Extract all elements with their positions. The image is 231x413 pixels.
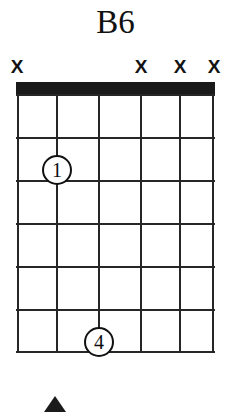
fret-line-6	[16, 351, 215, 353]
string-line-2	[56, 94, 58, 353]
string-line-3	[98, 94, 100, 353]
fretboard: 1 4	[17, 82, 214, 353]
string-marker-6: X	[203, 56, 225, 78]
string-line-5	[179, 94, 181, 353]
string-line-1	[17, 94, 19, 353]
string-marker-4: X	[130, 56, 152, 78]
string-marker-row: X X X X	[0, 56, 231, 80]
string-line-4	[140, 94, 142, 353]
fret-line-0	[16, 94, 215, 96]
finger-dot-4: 4	[84, 327, 114, 357]
chord-diagram-card: B6 X X X X 1 4	[0, 0, 231, 413]
fret-line-3	[16, 223, 215, 225]
string-line-6	[212, 94, 214, 353]
fret-line-5	[16, 309, 215, 311]
triangle-arrow-icon	[44, 396, 66, 412]
nut-bar	[16, 82, 215, 94]
chord-name-title: B6	[0, 2, 231, 42]
fret-line-4	[16, 266, 215, 268]
fret-grid: 1 4	[17, 94, 214, 353]
string-marker-5: X	[169, 56, 191, 78]
finger-dot-1: 1	[42, 155, 72, 185]
string-marker-1: X	[6, 56, 28, 78]
fret-line-1	[16, 137, 215, 139]
